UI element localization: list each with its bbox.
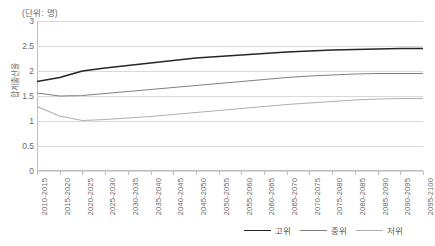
x-axis-tick-label: 2075-2080	[335, 178, 344, 215]
x-axis-tick-mark	[105, 171, 106, 175]
legend-item-고위[interactable]: 고위	[244, 224, 291, 236]
legend-item-저위[interactable]: 저위	[356, 224, 403, 236]
x-axis-tick-mark	[82, 171, 83, 175]
x-axis-tick-mark	[128, 171, 129, 175]
legend-label: 중위	[331, 224, 347, 236]
series-line-중위	[37, 74, 423, 97]
x-axis-tick-mark	[400, 171, 401, 175]
x-axis-tick-mark	[151, 171, 152, 175]
y-axis-tick-label: 1	[8, 116, 34, 126]
x-axis-tick-mark	[241, 171, 242, 175]
x-axis-tick-label: 2080-2085	[358, 178, 367, 215]
y-axis-tick-label: 3	[8, 16, 34, 26]
series-line-고위	[37, 49, 423, 82]
y-axis-tick-label: 0.5	[8, 141, 34, 151]
x-axis-tick-label: 2045-2050	[199, 178, 208, 215]
x-axis-tick-mark	[196, 171, 197, 175]
plot-area	[37, 21, 423, 171]
x-axis-tick-mark	[173, 171, 174, 175]
legend-swatch-고위	[244, 230, 271, 231]
x-axis-tick-mark	[309, 171, 310, 175]
x-axis-tick-label: 2095-2100	[426, 178, 435, 215]
legend-item-중위[interactable]: 중위	[300, 224, 347, 236]
x-axis-tick-label: 2020-2025	[86, 178, 95, 215]
legend-swatch-중위	[300, 230, 327, 231]
x-axis-tick-mark	[219, 171, 220, 175]
x-axis-tick-mark	[60, 171, 61, 175]
x-axis-tick-label: 2085-2090	[381, 178, 390, 215]
x-axis-tick-mark	[37, 171, 38, 175]
legend-label: 고위	[275, 224, 291, 236]
chart-legend: 고위중위저위	[244, 224, 403, 236]
x-axis-tick-mark	[378, 171, 379, 175]
series-lines	[37, 21, 423, 171]
y-axis-tick-label: 2	[8, 66, 34, 76]
x-axis-tick-label: 2025-2030	[108, 178, 117, 215]
x-axis-tick-label: 2035-2040	[154, 178, 163, 215]
x-axis-tick-label: 2015-2020	[63, 178, 72, 215]
legend-swatch-저위	[356, 230, 383, 231]
x-axis-tick-label: 2030-2035	[131, 178, 140, 215]
series-line-저위	[37, 99, 423, 121]
x-axis-tick-mark	[264, 171, 265, 175]
y-axis-tick-label: 0	[8, 166, 34, 176]
x-axis-tick-label: 2070-2075	[313, 178, 322, 215]
x-axis-tick-label: 2040-2045	[176, 178, 185, 215]
x-axis-tick-label: 2055-2060	[245, 178, 254, 215]
y-axis-tick-label: 2.5	[8, 41, 34, 51]
x-axis-tick-mark	[423, 171, 424, 175]
x-axis-tick-label: 2090-2095	[403, 178, 412, 215]
y-axis-tick-label: 1.5	[8, 91, 34, 101]
x-axis-tick-label: 2065-2070	[290, 178, 299, 215]
x-axis-tick-mark	[287, 171, 288, 175]
x-axis-tick-label: 2050-2055	[222, 178, 231, 215]
legend-label: 저위	[387, 224, 403, 236]
x-axis-tick-label: 2060-2065	[267, 178, 276, 215]
y-axis-tick-labels: 00.511.522.53	[4, 21, 34, 171]
x-axis-tick-label: 2010-2015	[40, 178, 49, 215]
x-axis-tick-labels: 2010-20152015-20202020-20252025-20302030…	[37, 178, 423, 226]
x-axis-tick-mark	[332, 171, 333, 175]
x-axis-tick-mark	[355, 171, 356, 175]
